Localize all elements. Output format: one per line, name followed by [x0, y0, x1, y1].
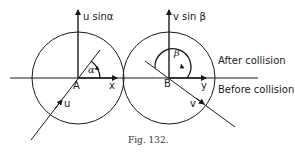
velocity-v-arrowhead	[196, 98, 204, 104]
velocity-u-label: u	[64, 99, 70, 109]
alpha-arc-arrowhead	[95, 66, 99, 70]
collision-diagram	[0, 0, 295, 153]
figure-caption: Fig. 132.	[128, 136, 169, 145]
v-sin-beta-label: v sin β	[173, 12, 206, 22]
beta-arc-arrowhead	[180, 64, 184, 68]
axis-y-label: y	[201, 81, 207, 91]
before-collision-label: Before collision	[218, 85, 294, 95]
velocity-u-arrowhead	[55, 100, 62, 109]
point-b-label: B	[164, 79, 171, 89]
velocity-v-label: v	[190, 99, 196, 109]
u-sin-alpha-label: u sinα	[83, 12, 113, 22]
beta-angle-arc	[155, 49, 191, 78]
after-collision-label: After collision	[218, 56, 286, 66]
beta-label: β	[174, 48, 180, 58]
axis-x-label: x	[109, 81, 115, 91]
alpha-label: α	[88, 65, 95, 75]
point-a-label: A	[73, 81, 80, 91]
